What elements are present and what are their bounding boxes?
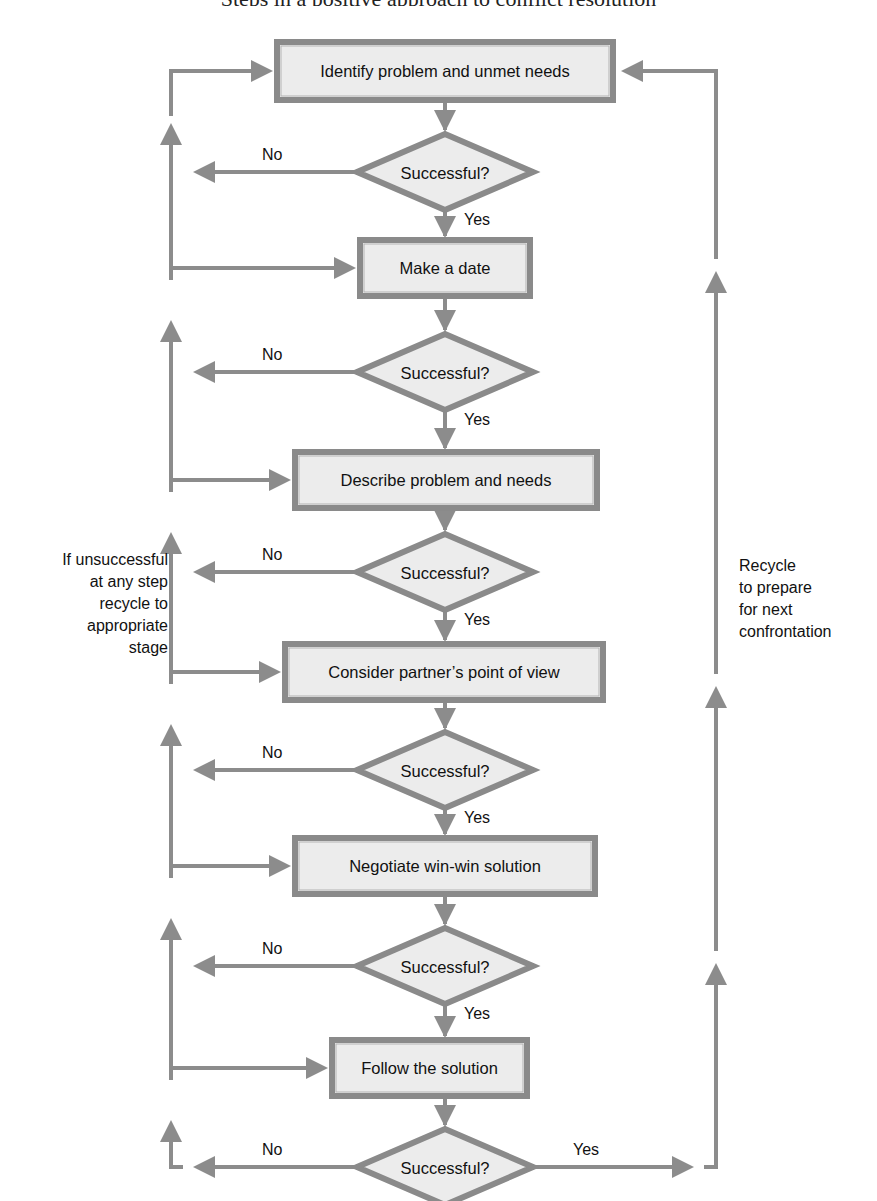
arrowhead-left-icon [193,361,215,383]
arrowhead-down-icon [434,310,456,332]
decision-label: Successful? [401,164,490,182]
right-note-line: to prepare [739,577,869,599]
arrowhead-up-icon [160,1120,182,1142]
decision-label: Successful? [401,1159,490,1177]
left-note-line: appropriate [14,615,168,637]
arrowhead-up-icon [705,271,727,293]
arrowhead-up-icon [160,123,182,145]
arrowhead-left-icon [193,759,215,781]
right-note-line: for next [739,599,869,621]
arrowhead-right-icon [259,661,281,683]
step-label: Negotiate win-win solution [349,857,541,875]
yes-label: Yes [464,411,490,428]
arrowhead-right-icon [306,1057,328,1079]
arrowhead-down-icon [434,1016,456,1038]
no-label: No [262,346,283,363]
arrowhead-left-icon [193,561,215,583]
left-note-line: at any step [14,571,168,593]
right-note-line: confrontation [739,621,869,643]
step-label: Consider partner’s point of view [328,663,560,681]
step-label: Follow the solution [361,1059,498,1077]
left-recycle-note: If unsuccessful at any step recycle to a… [14,549,168,659]
no-label: No [262,146,283,163]
arrowhead-left-icon [193,161,215,183]
arrowhead-left-icon [193,1156,215,1178]
arrowhead-up-icon [705,686,727,708]
arrowhead-down-icon [434,428,456,450]
step-label: Identify problem and unmet needs [320,62,570,80]
arrowhead-left-icon [193,955,215,977]
arrowhead-up-icon [160,724,182,746]
arrowhead-right-icon [269,855,291,877]
arrowhead-down-icon [434,510,456,532]
arrowhead-right-icon [334,257,356,279]
step-label: Make a date [400,259,491,277]
final-yes-label: Yes [573,1141,599,1158]
yes-label: Yes [464,1005,490,1022]
arrowhead-down-icon [434,110,456,132]
arrowhead-down-icon [434,904,456,926]
arrowhead-up-icon [160,320,182,342]
arrowhead-left-icon [621,60,643,82]
right-note-line: Recycle [739,555,869,577]
decision-label: Successful? [401,762,490,780]
yes-label: Yes [464,611,490,628]
step-label: Describe problem and needs [341,471,552,489]
decision-label: Successful? [401,364,490,382]
arrowhead-down-icon [434,1105,456,1127]
decision-label: Successful? [401,564,490,582]
arrowhead-right-icon [251,60,273,82]
decision-label: Successful? [401,958,490,976]
left-note-line: If unsuccessful [14,549,168,571]
arrowhead-right-icon [672,1156,694,1178]
yes-label: Yes [464,809,490,826]
arrowhead-up-icon [160,918,182,940]
left-note-line: stage [14,637,168,659]
connectors-layer [160,60,727,1178]
right-recycle-note: Recycle to prepare for next confrontatio… [739,555,869,643]
arrowhead-down-icon [434,708,456,730]
left-note-line: recycle to [14,593,168,615]
arrowhead-right-icon [269,469,291,491]
yes-label: Yes [464,211,490,228]
no-label: No [262,546,283,563]
no-label: No [262,1141,283,1158]
arrowhead-down-icon [434,620,456,642]
arrowhead-up-icon [705,963,727,985]
arrowhead-down-icon [434,216,456,238]
arrowhead-down-icon [434,814,456,836]
labels-layer: Identify problem and unmet needsMake a d… [262,62,599,1177]
no-label: No [262,744,283,761]
no-label: No [262,940,283,957]
